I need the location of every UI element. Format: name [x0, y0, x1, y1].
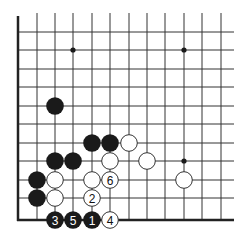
move-number-label: 4 [107, 214, 114, 228]
white-stone [176, 172, 193, 189]
white-stone [47, 172, 64, 189]
black-stone [46, 97, 64, 115]
star-point-icon [181, 158, 186, 163]
star-point-icon [70, 47, 75, 52]
black-stone [64, 152, 82, 170]
white-stone-move-4: 4 [102, 212, 119, 229]
move-number-label: 5 [70, 214, 77, 228]
white-stone [47, 190, 64, 207]
black-stone [28, 189, 46, 207]
white-stone [139, 153, 156, 170]
black-stone [46, 152, 64, 170]
board-grid [17, 13, 234, 221]
black-stone [101, 134, 119, 152]
white-stone-move-6: 6 [102, 172, 119, 189]
black-stone-move-1: 1 [83, 211, 101, 229]
move-number-label: 1 [89, 214, 96, 228]
white-stone [121, 135, 138, 152]
star-point-icon [181, 47, 186, 52]
white-stone [102, 153, 119, 170]
move-number-label: 2 [89, 192, 96, 206]
black-stone-move-5: 5 [64, 211, 82, 229]
black-stone-move-3: 3 [46, 211, 64, 229]
white-stone-move-2: 2 [84, 190, 101, 207]
go-board: 623514 [0, 0, 249, 240]
white-stone [84, 172, 101, 189]
black-stone [83, 134, 101, 152]
black-stone [28, 171, 46, 189]
move-number-label: 6 [107, 174, 114, 188]
move-number-label: 3 [52, 214, 59, 228]
